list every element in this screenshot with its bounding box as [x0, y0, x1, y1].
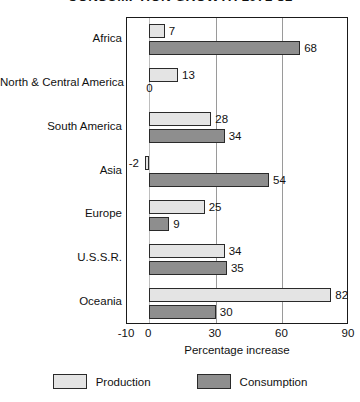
- bar-value-label: 9: [173, 217, 179, 231]
- x-tick-label-60: 60: [275, 327, 288, 339]
- bar-production: [149, 244, 224, 258]
- bar-value-label: 35: [231, 261, 244, 275]
- bar-value-label: 54: [273, 173, 286, 187]
- bar-consumption: [149, 129, 224, 143]
- bar-value-label: 13: [182, 68, 195, 82]
- chart-legend: Production Consumption: [0, 374, 360, 389]
- bar-production: [149, 68, 178, 82]
- y-axis-category-labels: AfricaNorth & Central AmericaSouth Ameri…: [0, 17, 122, 324]
- legend-swatch-consumption-icon: [197, 374, 231, 389]
- x-tick-label--10: -10: [118, 327, 135, 339]
- bar-production: [145, 156, 149, 170]
- y-axis-label-u-s-s-r: U.S.S.R.: [0, 251, 122, 263]
- y-axis-label-asia: Asia: [0, 164, 122, 176]
- legend-label-production: Production: [96, 376, 151, 388]
- legend-label-consumption: Consumption: [240, 376, 308, 388]
- chart-title: CONSUMPTION GROWTH 1971-81: [0, 0, 360, 4]
- x-tick-label-30: 30: [208, 327, 221, 339]
- bar-value-label: -2: [129, 156, 139, 170]
- bar-consumption: [149, 305, 216, 319]
- y-axis-label-north-central-america: North & Central America: [0, 76, 122, 88]
- y-axis-label-africa: Africa: [0, 32, 122, 44]
- bar-production: [149, 288, 331, 302]
- x-axis-ticks: -100306090: [126, 327, 348, 341]
- bar-value-label: 7: [169, 24, 175, 38]
- bar-consumption: [149, 261, 227, 275]
- gridline-60: [282, 18, 283, 323]
- gridline-30: [216, 18, 217, 323]
- bar-consumption: [149, 173, 269, 187]
- x-axis-label: Percentage increase: [126, 344, 348, 356]
- x-tick-label-0: 0: [145, 327, 151, 339]
- legend-item-production[interactable]: Production: [53, 374, 151, 389]
- bar-value-label: 25: [209, 200, 222, 214]
- bar-value-label: 30: [220, 305, 233, 319]
- x-tick-label-90: 90: [342, 327, 355, 339]
- bar-value-label: 0: [146, 81, 152, 95]
- y-axis-label-oceania: Oceania: [0, 295, 122, 307]
- bar-consumption: [149, 217, 169, 231]
- bar-value-label: 34: [229, 244, 242, 258]
- bar-value-label: 34: [229, 129, 242, 143]
- y-axis-label-south-america: South America: [0, 120, 122, 132]
- plot-inner: 7681302834-25425934358230: [127, 18, 347, 323]
- bar-value-label: 28: [215, 112, 228, 126]
- plot-area: 7681302834-25425934358230: [126, 17, 348, 324]
- legend-item-consumption[interactable]: Consumption: [197, 374, 308, 389]
- y-axis-label-europe: Europe: [0, 207, 122, 219]
- bar-value-label: 82: [335, 288, 348, 302]
- bar-production: [149, 24, 165, 38]
- zero-line: [149, 18, 150, 323]
- bar-value-label: 68: [304, 41, 317, 55]
- legend-swatch-production-icon: [53, 374, 87, 389]
- bar-production: [149, 200, 205, 214]
- bar-consumption: [149, 41, 300, 55]
- bar-production: [149, 112, 211, 126]
